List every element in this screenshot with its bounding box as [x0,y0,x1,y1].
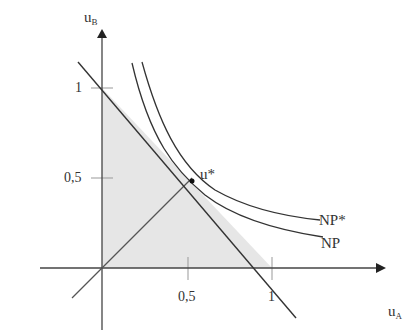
diagram-canvas: uB uA 1 0,5 0,5 1 u* NP* NP [0,0,415,331]
x-tick-label-1: 1 [268,290,275,304]
y-tick-label-half: 0,5 [64,171,82,185]
y-axis-arrow-icon [97,29,107,38]
x-axis-arrow-icon [376,263,386,273]
x-axis-label: uA [388,304,402,321]
y-tick-label-1: 1 [75,81,82,95]
optimum-label: u* [200,167,215,182]
np-label: NP [321,236,340,251]
y-axis-label: uB [84,10,98,27]
x-tick-label-half: 0,5 [178,290,196,304]
np-star-label: NP* [319,213,346,228]
optimum-point [190,179,195,184]
